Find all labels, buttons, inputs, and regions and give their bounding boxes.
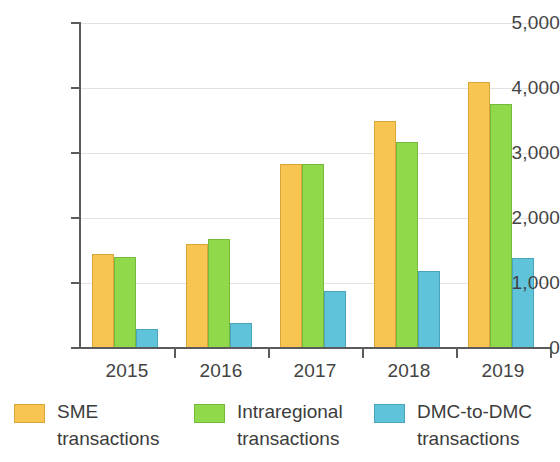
bar-2015-intra [114,257,136,348]
y-tick-2000 [71,217,80,219]
y-tick-label-3000: 3,000 [498,142,560,164]
y-tick-0 [71,347,80,349]
y-tick-label-5000: 5,000 [498,12,560,34]
x-tick-label-2015: 2015 [82,360,172,382]
bar-2019-sme [468,82,490,349]
plot-area [80,23,550,348]
x-tick-2018 [456,349,458,358]
y-tick-label-1000: 1,000 [498,272,560,294]
legend-swatch-icon-dmc-to-dmc [374,404,405,423]
legend-item-dmc-to-dmc-transactions[interactable]: DMC-to-DMC transactions [374,398,532,452]
bar-2017-sme [280,164,302,348]
legend-label-sme-line1: SME [57,398,159,425]
y-tick-label-2000: 2,000 [498,207,560,229]
legend-label-intraregional-line2: transactions [237,425,343,452]
legend-label-intraregional: Intraregional transactions [237,398,343,452]
x-tick-label-2016: 2016 [176,360,266,382]
x-tick-2019 [550,349,552,358]
bar-2015-sme [92,254,114,348]
legend-label-dmc-to-dmc-line1: DMC-to-DMC [417,398,532,425]
bar-2017-dmc [324,291,346,348]
x-axis-line [79,347,551,349]
x-tick-label-2019: 2019 [458,360,548,382]
legend-item-intraregional-transactions[interactable]: Intraregional transactions [194,398,343,452]
y-axis-line [79,22,81,349]
legend-swatch-icon-sme [14,404,45,423]
legend-label-dmc-to-dmc-line2: transactions [417,425,532,452]
bar-2015-dmc [136,329,158,348]
legend-label-dmc-to-dmc: DMC-to-DMC transactions [417,398,532,452]
bar-2018-dmc [418,271,440,348]
bar-2016-intra [208,239,230,348]
x-tick-label-2018: 2018 [364,360,454,382]
bar-2018-intra [396,142,418,348]
legend-label-intraregional-line1: Intraregional [237,398,343,425]
bar-2018-sme [374,121,396,348]
legend-label-sme-line2: transactions [57,425,159,452]
y-tick-4000 [71,87,80,89]
legend-label-sme: SME transactions [57,398,159,452]
bar-2017-intra [302,164,324,348]
bar-chart: 5,000 4,000 3,000 2,000 1,000 0 20152016… [0,0,560,462]
x-tick-label-2017: 2017 [270,360,360,382]
chart-legend: SME transactions Intraregional transacti… [0,398,560,462]
bar-2016-sme [186,244,208,348]
legend-swatch-icon-intraregional [194,404,225,423]
bar-2016-dmc [230,323,252,348]
y-tick-3000 [71,152,80,154]
x-tick-2015 [174,349,176,358]
legend-item-sme-transactions[interactable]: SME transactions [14,398,159,452]
x-tick-2017 [362,349,364,358]
gridline-5000 [80,23,550,24]
y-tick-1000 [71,282,80,284]
y-tick-5000 [71,22,80,24]
x-tick-2016 [268,349,270,358]
y-tick-label-4000: 4,000 [498,77,560,99]
